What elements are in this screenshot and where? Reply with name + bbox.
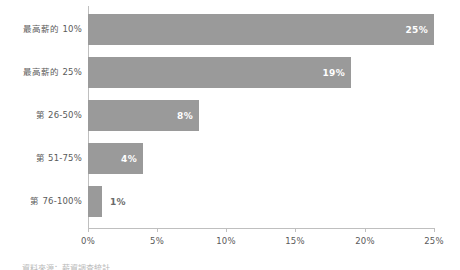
x-tick-mark-3 <box>295 228 296 232</box>
x-tick-label-0: 0% <box>81 236 95 246</box>
category-label-1: 最高薪的 25% <box>0 68 82 77</box>
x-tick-label-3: 15% <box>285 236 305 246</box>
x-tick-mark-4 <box>365 228 366 232</box>
x-tick-mark-5 <box>434 228 435 232</box>
x-tick-mark-0 <box>88 228 89 232</box>
x-tick-label-4: 20% <box>355 236 375 246</box>
category-label-4: 第 76-100% <box>0 197 82 206</box>
category-label-3: 第 51-75% <box>0 154 82 163</box>
x-tick-mark-2 <box>226 228 227 232</box>
category-label-2: 第 26-50% <box>0 111 82 120</box>
chart-caption: 資料來源：薪資調查統計 <box>22 262 110 270</box>
x-tick-label-2: 10% <box>216 236 236 246</box>
bar-chart: 最高薪的 10% 最高薪的 25% 第 26-50% 第 51-75% 第 76… <box>0 0 460 270</box>
bar-value-1: 19% <box>323 68 345 78</box>
bar-2[interactable]: 8% <box>88 100 199 131</box>
bar-1[interactable]: 19% <box>88 57 351 88</box>
x-tick-label-1: 5% <box>150 236 164 246</box>
bar-value-2: 8% <box>177 111 193 121</box>
plot-area: 25% 19% 8% 4% 1% <box>88 6 434 228</box>
bar-value-3: 4% <box>121 154 137 164</box>
x-tick-label-5: 25% <box>424 236 444 246</box>
bar-3[interactable]: 4% <box>88 143 143 174</box>
bar-value-4: 1% <box>110 197 126 207</box>
category-label-0: 最高薪的 10% <box>0 25 82 34</box>
bar-value-0: 25% <box>406 25 428 35</box>
x-axis-line <box>88 228 434 229</box>
x-tick-mark-1 <box>157 228 158 232</box>
bar-0[interactable]: 25% <box>88 14 434 45</box>
bar-4[interactable]: 1% <box>88 186 102 217</box>
